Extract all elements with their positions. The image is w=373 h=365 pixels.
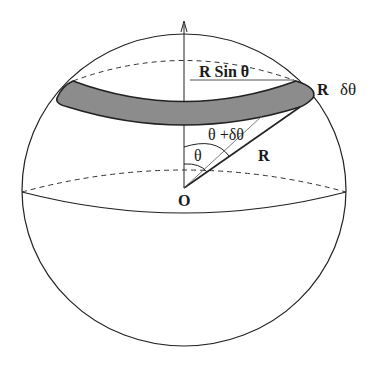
sphere-diagram: R Sin θ R δθ θ +δθ θ R O — [0, 0, 373, 365]
label-radius: R — [258, 148, 270, 164]
label-delta-theta: δθ — [340, 81, 356, 98]
label-theta: θ — [194, 148, 202, 164]
angle-arc-theta-plus-delta — [184, 144, 229, 156]
sphere-drawing — [0, 0, 373, 365]
label-theta-plus-delta: θ +δθ — [208, 127, 244, 143]
label-origin: O — [178, 193, 190, 209]
label-r-edge: R — [317, 82, 329, 98]
label-r-sin-theta: R Sin θ — [199, 64, 249, 80]
zone-band — [57, 81, 314, 125]
